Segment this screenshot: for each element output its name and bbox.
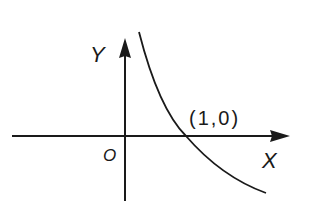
origin-label: O xyxy=(103,147,116,164)
x-axis-label: X xyxy=(262,150,277,172)
diagram-canvas xyxy=(0,0,310,212)
point-label: (1,0) xyxy=(189,108,240,128)
y-axis xyxy=(119,38,131,201)
y-axis-label: Y xyxy=(90,44,105,66)
x-axis-arrow-icon xyxy=(270,130,290,142)
y-axis-arrow-icon xyxy=(119,38,131,58)
x-axis xyxy=(12,130,290,142)
